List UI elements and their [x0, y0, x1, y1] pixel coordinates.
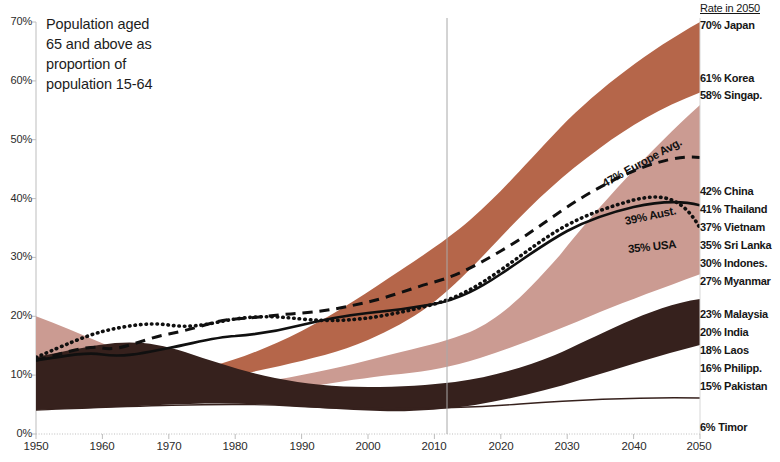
title-line-4: population 15-64 — [46, 74, 246, 94]
legend-item-india: 20% India — [700, 326, 749, 338]
y-tick-70: 70% — [0, 15, 32, 27]
x-tick-2040: 2040 — [621, 440, 646, 452]
legend-item-malaysia: 23% Malaysia — [700, 308, 768, 320]
title-line-2: 65 and above as — [46, 34, 246, 54]
x-tick-1970: 1970 — [156, 440, 181, 452]
x-tick-1980: 1980 — [222, 440, 247, 452]
legend-item-korea: 61% Korea — [700, 72, 754, 84]
title-line-3: proportion of — [46, 54, 246, 74]
y-axis-ticks — [32, 22, 36, 434]
x-tick-2010: 2010 — [421, 440, 446, 452]
y-tick-60: 60% — [0, 74, 32, 86]
y-tick-0: 0% — [0, 427, 32, 439]
y-tick-50: 50% — [0, 133, 32, 145]
legend-item-timor: 6% Timor — [700, 421, 747, 433]
legend-header: Rate in 2050 — [700, 2, 760, 14]
chart-title-block: Population aged 65 and above as proporti… — [46, 14, 246, 94]
population-ageing-area-chart: 70% 60% 50% 40% 30% 20% 10% 0% 1950 1960… — [0, 0, 780, 462]
legend-item-srilanka: 35% Sri Lanka — [700, 239, 771, 251]
x-tick-1950: 1950 — [23, 440, 48, 452]
x-tick-1990: 1990 — [289, 440, 314, 452]
legend-item-indonesia: 30% Indones. — [700, 257, 767, 269]
country-rate-legend: Rate in 2050 70% Japan 61% Korea 58% Sin… — [700, 0, 780, 462]
x-tick-1960: 1960 — [89, 440, 114, 452]
legend-item-myanmar: 27% Myanmar — [700, 275, 771, 287]
y-tick-30: 30% — [0, 250, 32, 262]
y-tick-10: 10% — [0, 368, 32, 380]
legend-item-thailand: 41% Thailand — [700, 203, 767, 215]
legend-item-china: 42% China — [700, 185, 753, 197]
legend-item-philipp: 16% Philipp. — [700, 362, 762, 374]
y-tick-40: 40% — [0, 192, 32, 204]
legend-item-laos: 18% Laos — [700, 344, 749, 356]
legend-item-japan: 70% Japan — [700, 19, 755, 31]
x-tick-2020: 2020 — [488, 440, 513, 452]
y-tick-20: 20% — [0, 309, 32, 321]
legend-item-pakistan: 15% Pakistan — [700, 380, 767, 392]
title-line-1: Population aged — [46, 14, 246, 34]
legend-item-vietnam: 37% Vietnam — [700, 221, 765, 233]
x-axis-ticks — [36, 434, 700, 439]
x-tick-2000: 2000 — [355, 440, 380, 452]
x-tick-2030: 2030 — [554, 440, 579, 452]
legend-item-singapore: 58% Singap. — [700, 89, 762, 101]
